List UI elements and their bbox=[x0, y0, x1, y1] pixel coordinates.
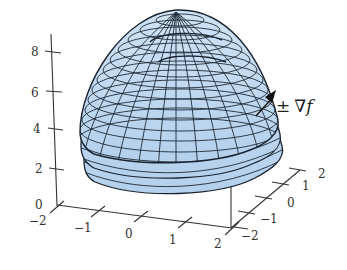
level-surface-top bbox=[78, 10, 282, 170]
z-tick-label: 2 bbox=[35, 162, 43, 176]
gradient-label: ±∇f bbox=[276, 96, 315, 116]
y-tick-label: −2 bbox=[241, 229, 259, 243]
x-tick-label: −2 bbox=[29, 214, 47, 228]
y-tick-label: 1 bbox=[302, 179, 310, 193]
x-tick-label: 2 bbox=[214, 237, 222, 251]
y-tick-label: 2 bbox=[318, 167, 326, 181]
z-tick-label: 4 bbox=[33, 122, 41, 136]
y-tick-label: 0 bbox=[287, 196, 295, 210]
y-tick-label: −1 bbox=[260, 212, 278, 226]
x-tick-label: 1 bbox=[169, 233, 177, 247]
x-tick-label: −1 bbox=[74, 221, 92, 235]
z-axis: 8 6 4 2 0 bbox=[31, 34, 64, 212]
z-tick-label: 0 bbox=[35, 198, 43, 212]
x-tick-label: 0 bbox=[125, 227, 133, 241]
z-tick-label: 8 bbox=[31, 45, 39, 59]
z-tick-label: 6 bbox=[31, 86, 39, 100]
surface-plot-figure: 8 6 4 2 0 −2 −1 0 1 2 −2 −1 0 1 2 bbox=[0, 0, 347, 270]
x-axis: −2 −1 0 1 2 bbox=[29, 201, 239, 251]
